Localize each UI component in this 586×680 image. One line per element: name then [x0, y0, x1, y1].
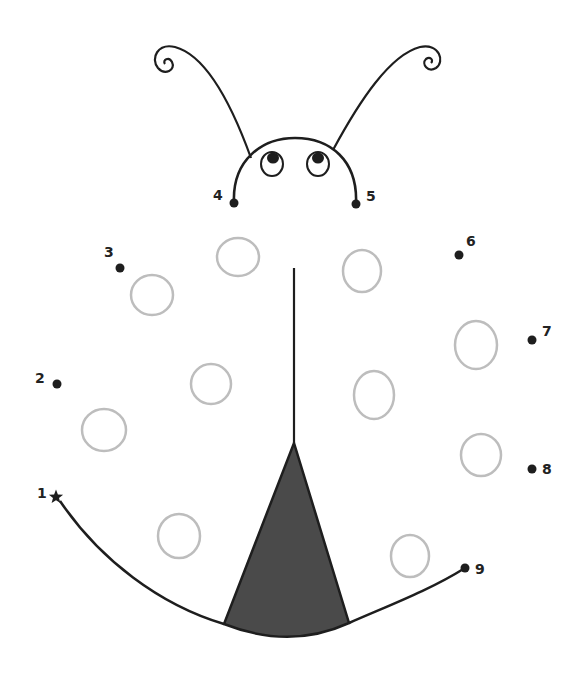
dot-icon [230, 199, 239, 208]
dot-2[interactable]: 2 [35, 370, 62, 389]
dot-icon [352, 200, 361, 209]
dot-icon [455, 251, 464, 260]
dot-icon [528, 336, 537, 345]
spot-3 [131, 275, 173, 315]
ladybug-drawing: 123456789 [0, 0, 586, 680]
spot-6 [354, 371, 394, 419]
left-body-curve [60, 501, 224, 624]
spot-9 [158, 514, 200, 558]
spot-4 [455, 321, 497, 369]
dot-icon [116, 264, 125, 273]
dot-label: 8 [542, 461, 552, 477]
spot-7 [82, 409, 126, 451]
spot-2 [343, 250, 381, 292]
right-antenna-icon [333, 46, 440, 150]
dot-icon [461, 564, 470, 573]
dot-label: 1 [37, 485, 47, 501]
dot-label: 6 [466, 233, 476, 249]
dot-1[interactable]: 1 [37, 485, 63, 503]
dot-label: 3 [104, 244, 114, 260]
dot-9[interactable]: 9 [461, 561, 485, 577]
eyes-icon [261, 152, 329, 176]
spot-8 [461, 434, 501, 476]
head-outline [234, 138, 356, 204]
tail-wedge [224, 443, 349, 637]
spot-5 [191, 364, 231, 404]
dot-label: 2 [35, 370, 45, 386]
left-antenna-icon [155, 46, 251, 158]
dot-icon [528, 465, 537, 474]
dot-7[interactable]: 7 [528, 323, 552, 345]
dot-3[interactable]: 3 [104, 244, 125, 273]
dot-label: 5 [366, 188, 376, 204]
spot-10 [391, 535, 429, 577]
dot-8[interactable]: 8 [528, 461, 552, 477]
dot-label: 9 [475, 561, 485, 577]
dot-icon [53, 380, 62, 389]
spot-1 [217, 238, 259, 276]
dot-label: 4 [213, 187, 223, 203]
dot-label: 7 [542, 323, 552, 339]
dot-6[interactable]: 6 [455, 233, 476, 260]
